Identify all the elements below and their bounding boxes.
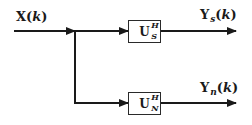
block-symbol: U: [139, 25, 149, 39]
noise-output-label: Yn(k): [200, 81, 238, 97]
signal-subspace-block: UHS: [128, 20, 161, 43]
noise-subspace-block: UHN: [128, 92, 161, 115]
input-symbol: X: [16, 9, 26, 24]
signal-output-label: Ys(k): [200, 8, 237, 24]
input-label: X(k): [16, 10, 47, 23]
block-symbol: U: [139, 97, 149, 111]
